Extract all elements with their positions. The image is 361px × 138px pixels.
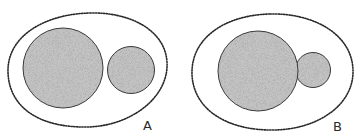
diagram-figure: A B <box>0 0 361 138</box>
panel-a: A <box>8 13 167 133</box>
panel-label-b: B <box>333 119 342 134</box>
panel-label-a: A <box>143 118 152 133</box>
panel-b: B <box>192 14 353 134</box>
